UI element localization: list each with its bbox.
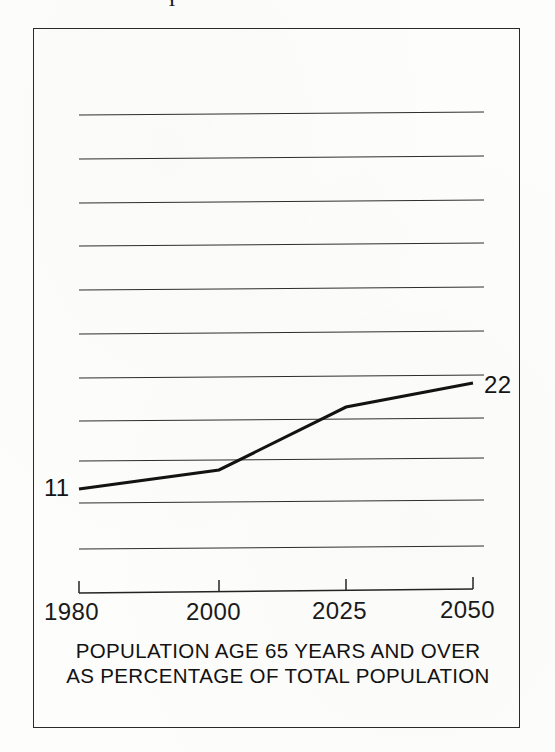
x-tick-label-2000: 2000 xyxy=(186,598,241,626)
start-value-label: 11 xyxy=(44,474,70,502)
x-tick-label-2025: 2025 xyxy=(312,597,367,625)
figure-page: ʕ 1980 2000 2025 2050 xyxy=(0,0,555,752)
gridline-5 xyxy=(79,287,484,290)
end-value-label: 22 xyxy=(484,371,511,399)
caption-line-1: POPULATION AGE 65 YEARS AND OVER xyxy=(45,638,511,663)
gridline-10 xyxy=(79,500,484,503)
gridline-6 xyxy=(79,331,484,334)
x-tick-label-2050: 2050 xyxy=(440,596,495,624)
x-axis-line xyxy=(79,589,473,593)
gridline-11 xyxy=(79,546,484,549)
gridline-2 xyxy=(79,156,484,159)
gridline-3 xyxy=(79,200,484,203)
gridline-7 xyxy=(79,375,484,378)
chart-caption: POPULATION AGE 65 YEARS AND OVER AS PERC… xyxy=(45,638,511,688)
x-tick-label-1980: 1980 xyxy=(44,598,99,626)
data-series-line xyxy=(79,383,473,489)
gridline-1 xyxy=(79,112,484,115)
gridline-8 xyxy=(79,418,484,421)
gridline-4 xyxy=(79,243,484,246)
gridline-9 xyxy=(79,458,484,461)
gridline-group xyxy=(79,112,484,549)
x-axis-group xyxy=(79,577,473,593)
caption-line-2: AS PERCENTAGE OF TOTAL POPULATION xyxy=(45,663,511,688)
